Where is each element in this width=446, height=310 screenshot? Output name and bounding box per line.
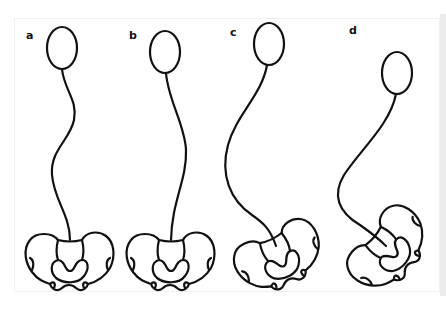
panel-label-c: c — [230, 26, 237, 39]
cord-d — [338, 94, 396, 246]
pelvis-b — [127, 233, 215, 291]
diagram-canvas: a b c d — [0, 0, 446, 310]
panel-a: a — [26, 27, 114, 290]
pelvis-a — [26, 233, 114, 291]
panel-c: c — [225, 23, 331, 302]
cord-c — [225, 65, 276, 246]
panel-b: b — [127, 29, 215, 290]
head-oval-c — [254, 23, 284, 65]
cord-a — [52, 69, 75, 240]
panel-label-a: a — [26, 29, 33, 42]
panel-label-b: b — [129, 29, 137, 42]
pelvis-c — [227, 213, 331, 302]
head-oval-b — [150, 31, 180, 73]
head-oval-d — [382, 52, 412, 94]
cord-b — [166, 73, 186, 240]
head-oval-a — [47, 27, 77, 69]
panel-d: d — [338, 24, 440, 302]
pelvis-d — [339, 198, 440, 302]
panel-label-d: d — [349, 24, 357, 37]
